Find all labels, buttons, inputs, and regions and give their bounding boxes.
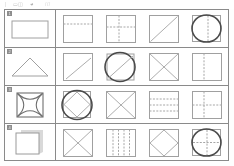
table-row: 4: [5, 124, 228, 161]
result-cell: [185, 124, 228, 161]
query-cell: 2: [5, 48, 56, 85]
result-cells: [56, 10, 228, 47]
result-cell: [142, 124, 185, 161]
result-cell: [56, 10, 99, 47]
triangle-icon: [9, 54, 51, 80]
square-with-dashed-cross-icon: [191, 90, 223, 120]
page-root: | ▭◫ ◕ /// 1: [0, 0, 234, 166]
result-cell: [99, 10, 142, 47]
result-cells: [56, 86, 228, 123]
query-cell: 4: [5, 124, 56, 161]
square-with-curved-x-icon: [15, 91, 45, 119]
header-fragment-2: ▭◫: [13, 1, 23, 7]
result-cell: [56, 124, 99, 161]
table-row: 3: [5, 86, 228, 124]
square-with-horizontal-dashed-line-icon: [62, 14, 94, 44]
square-with-four-vertical-dashed-lines-icon: [105, 128, 137, 158]
result-cell: [185, 10, 228, 47]
square-with-dashed-cross-icon: [105, 14, 137, 44]
shape-results-table: 1: [4, 9, 229, 161]
row-label: 1: [7, 11, 12, 16]
result-cells: [56, 48, 228, 85]
circle-diamond-square-icon: [60, 89, 96, 121]
row-label: 3: [7, 87, 12, 92]
square-with-three-horizontal-dashed-lines-icon: [148, 90, 180, 120]
square-with-vertical-dashed-line-icon: [191, 52, 223, 82]
result-cell: [99, 86, 142, 123]
square-with-x-icon: [62, 128, 94, 158]
result-cell: [99, 48, 142, 85]
circle-with-diagonal-icon: [103, 51, 139, 83]
result-cell: [99, 124, 142, 161]
circle-with-dashed-cross-icon: [190, 127, 224, 159]
row-label: 4: [7, 125, 12, 130]
circle-over-square-with-vertical-line-icon: [190, 13, 224, 45]
square-with-diagonal-icon: [148, 14, 180, 44]
header-fragment-1: |: [5, 1, 6, 7]
table-row: 1: [5, 10, 228, 48]
row-label: 2: [7, 49, 12, 54]
scanned-header-strip: | ▭◫ ◕ ///: [0, 0, 234, 9]
result-cell: [142, 48, 185, 85]
result-cell: [56, 48, 99, 85]
header-fragment-4: ///: [45, 1, 51, 7]
square-with-x-icon: [148, 52, 180, 82]
query-cell: 3: [5, 86, 56, 123]
folded-page-icon: [13, 128, 47, 158]
table-row: 2: [5, 48, 228, 86]
square-with-x-icon: [105, 90, 137, 120]
square-with-diamond-icon: [148, 128, 180, 158]
result-cell: [56, 86, 99, 123]
rectangle-icon: [10, 16, 50, 42]
square-with-diagonal-icon: [62, 52, 94, 82]
query-cell: 1: [5, 10, 56, 47]
header-fragment-3: ◕: [30, 1, 34, 7]
result-cell: [142, 10, 185, 47]
result-cell: [185, 86, 228, 123]
result-cells: [56, 124, 228, 161]
result-cell: [185, 48, 228, 85]
result-cell: [142, 86, 185, 123]
